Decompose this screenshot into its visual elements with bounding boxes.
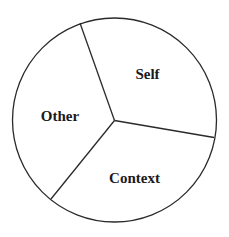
sector-label-context: Context bbox=[109, 170, 160, 186]
sector-label-other: Other bbox=[41, 108, 80, 124]
three-sector-circle-diagram: Self Other Context bbox=[0, 0, 229, 237]
sector-label-self: Self bbox=[135, 66, 160, 82]
